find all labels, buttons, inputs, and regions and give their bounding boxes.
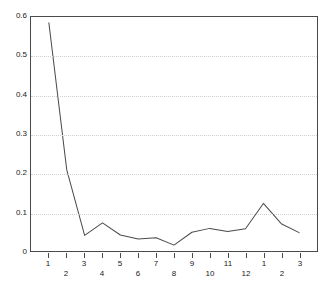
x-axis-tick-label: 6: [136, 269, 140, 278]
x-axis-tick-label: 1: [262, 259, 266, 268]
y-axis-tick-label: 0.3: [1, 130, 27, 138]
x-axis-tick-label: 5: [118, 259, 122, 268]
x-axis-tick-label: 2: [280, 269, 284, 278]
y-axis-tick-label: 0: [1, 248, 27, 256]
x-axis-tick-label: 1: [46, 259, 50, 268]
x-axis-tick-label: 4: [100, 269, 104, 278]
line-series-svg: [31, 17, 317, 251]
x-axis-tick-label: 11: [224, 259, 232, 268]
x-axis-tick-labels: 123456789101112123: [30, 257, 318, 283]
y-gridline: [31, 174, 317, 175]
y-gridline: [31, 214, 317, 215]
x-axis-tick-label: 8: [172, 269, 176, 278]
y-gridline: [31, 96, 317, 97]
x-axis-tick-label: 12: [242, 269, 251, 278]
y-gridline: [31, 135, 317, 136]
y-axis-tick-label: 0.4: [1, 91, 27, 99]
y-axis-tick-labels: 00.10.20.30.40.50.6: [0, 16, 27, 252]
y-axis-tick-label: 0.1: [1, 209, 27, 217]
x-axis-tick-label: 7: [154, 259, 158, 268]
y-axis-tick-label: 0.5: [1, 51, 27, 59]
y-gridline: [31, 56, 317, 57]
x-axis-tick-label: 3: [82, 259, 86, 268]
y-axis-tick-label: 0.2: [1, 169, 27, 177]
plot-area: [30, 16, 318, 252]
x-axis-tick-label: 10: [206, 269, 215, 278]
y-axis-tick-label: 0.6: [1, 12, 27, 20]
chart-figure: 00.10.20.30.40.50.6 123456789101112123: [0, 0, 334, 286]
x-axis-tick-label: 9: [190, 259, 194, 268]
x-axis-tick-label: 3: [298, 259, 302, 268]
x-axis-tick-label: 2: [64, 269, 68, 278]
